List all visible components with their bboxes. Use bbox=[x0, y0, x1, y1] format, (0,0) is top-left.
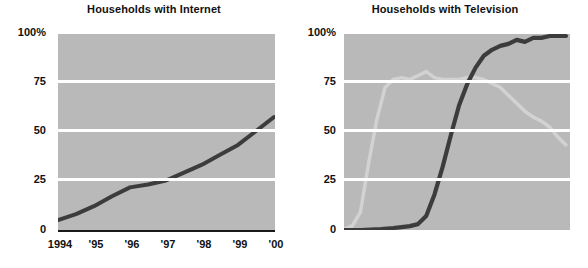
gridline-100 bbox=[58, 31, 275, 34]
x-tick-96: '96 bbox=[125, 238, 140, 250]
plot-area-internet bbox=[58, 32, 275, 230]
y-tick-100: 100% bbox=[308, 26, 336, 38]
x-tick-99: '99 bbox=[233, 238, 248, 250]
y-tick-50: 50 bbox=[324, 124, 336, 136]
line-monochrome bbox=[344, 72, 566, 229]
y-tick-0: 0 bbox=[40, 223, 46, 235]
y-tick-100: 100% bbox=[18, 26, 46, 38]
x-tick-00: '00 bbox=[269, 238, 284, 250]
x-tick-98: '98 bbox=[197, 238, 212, 250]
x-tick-97: '97 bbox=[161, 238, 176, 250]
y-axis-internet: 100% 75 50 25 0 bbox=[0, 32, 52, 230]
y-tick-0: 0 bbox=[330, 223, 336, 235]
gridline-25 bbox=[344, 178, 570, 181]
gridline-75 bbox=[344, 80, 570, 83]
x-tick-95: '95 bbox=[89, 238, 104, 250]
page-title-television: Households with Television bbox=[294, 3, 588, 15]
x-axis-line-internet bbox=[58, 230, 275, 232]
y-tick-25: 25 bbox=[34, 173, 46, 185]
x-axis-internet: 1994 '95 '96 '97 '98 '99 '00 bbox=[30, 238, 290, 258]
page-title-internet: Households with Internet bbox=[0, 3, 294, 15]
line-internet-adoption bbox=[58, 117, 274, 220]
y-tick-25: 25 bbox=[324, 173, 336, 185]
x-tick-1994: 1994 bbox=[48, 238, 72, 250]
y-tick-75: 75 bbox=[324, 75, 336, 87]
dual-line-chart-figure: Households with Internet 100% 75 50 25 0… bbox=[0, 0, 588, 268]
y-axis-television: 100% 75 50 25 0 bbox=[290, 32, 342, 230]
gridline-50 bbox=[344, 129, 570, 132]
line-color bbox=[344, 36, 566, 230]
gridline-100 bbox=[344, 31, 570, 34]
y-tick-75: 75 bbox=[34, 75, 46, 87]
panel-households-with-television: Households with Television 100% 75 50 25… bbox=[294, 0, 588, 268]
plot-area-television bbox=[344, 32, 570, 230]
y-tick-50: 50 bbox=[34, 124, 46, 136]
gridline-75 bbox=[58, 80, 275, 83]
panel-households-with-internet: Households with Internet 100% 75 50 25 0… bbox=[0, 0, 294, 268]
gridline-25 bbox=[58, 178, 275, 181]
gridline-50 bbox=[58, 129, 275, 132]
